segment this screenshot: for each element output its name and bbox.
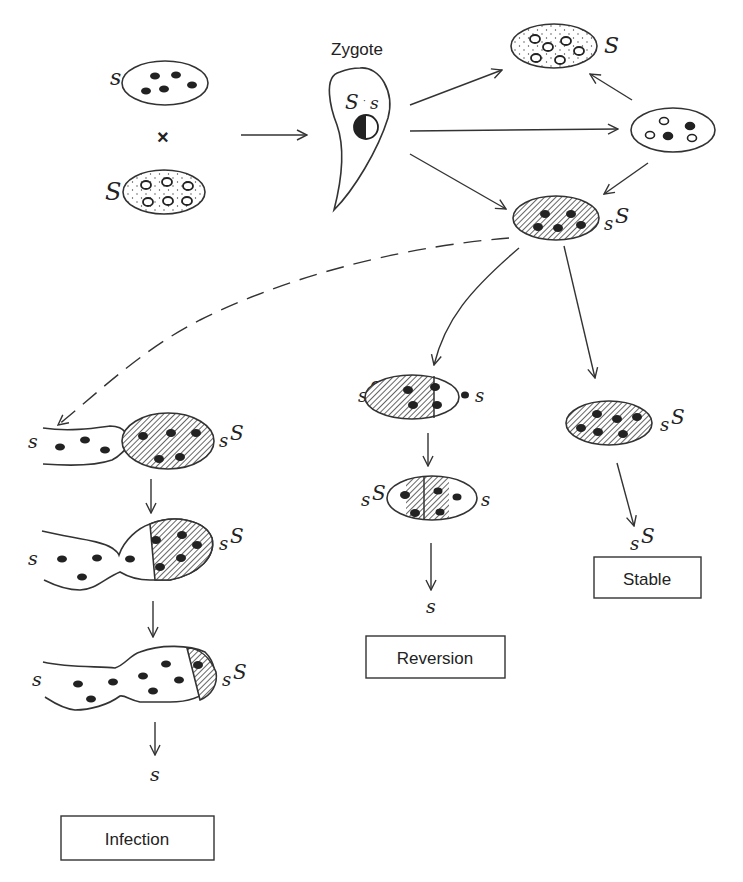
cell-killer xyxy=(123,170,205,214)
cell-stable xyxy=(566,401,652,445)
diagram-canvas: s × S Zygote S · s xyxy=(0,0,743,882)
zygote-body xyxy=(329,68,389,210)
stable-result-small: s xyxy=(630,533,639,554)
label-s: s xyxy=(660,414,669,435)
infection-result-label: s xyxy=(150,763,160,785)
outcome-mixed xyxy=(631,108,715,152)
arrow-zygote-to-heterozygote xyxy=(410,154,506,209)
reversion-result-label: s xyxy=(426,595,436,617)
label-S: S xyxy=(615,204,629,228)
label-S: S xyxy=(233,660,247,684)
stable-box-label: Stable xyxy=(623,570,671,589)
reversion-stage-2: s S s xyxy=(361,476,490,520)
parent-killer: S xyxy=(105,170,205,214)
zygote-title: Zygote xyxy=(331,40,383,59)
infected-cell xyxy=(122,413,214,469)
cell-killer-offspring xyxy=(511,24,597,68)
label-S: S xyxy=(230,421,244,445)
stable-result-big: S xyxy=(641,524,655,548)
arrow-stable-result xyxy=(617,463,634,526)
arrow-mixed-to-heterozygote xyxy=(604,163,648,194)
label-S: S xyxy=(372,481,386,505)
arrow-to-stable xyxy=(564,246,595,378)
label-S: S xyxy=(604,33,619,58)
label-s: s xyxy=(222,669,231,690)
infection-box-label: Infection xyxy=(105,830,169,849)
label-S: S xyxy=(671,405,685,429)
label-s: s xyxy=(481,489,490,510)
nucleus-label-S: S xyxy=(345,90,359,114)
parent-sensitive: s xyxy=(110,61,208,105)
zygote: Zygote S · s xyxy=(329,40,389,210)
nucleus-label-s: s xyxy=(370,93,379,113)
cell-heterozygote xyxy=(513,196,599,240)
arrow-to-reversion xyxy=(434,248,519,365)
label-s: s xyxy=(475,385,484,406)
cross-symbol: × xyxy=(157,126,169,148)
label-s: s xyxy=(110,65,121,90)
label-s: s xyxy=(219,533,228,554)
label-S: S xyxy=(230,524,244,548)
arrow-zygote-to-mixed xyxy=(410,129,618,131)
label-s: s xyxy=(361,489,370,510)
reversion-stage-1: s S s xyxy=(358,375,484,419)
reversion-box-label: Reversion xyxy=(397,649,474,668)
infection-stage-1: s s S xyxy=(28,413,244,469)
label-s: s xyxy=(219,430,228,451)
label-s: s xyxy=(28,430,38,452)
outcome-heterozygote: s S xyxy=(513,196,629,240)
label-S: S xyxy=(105,178,121,206)
cell-mixed xyxy=(631,108,715,152)
label-s: s xyxy=(32,668,42,690)
label-s: s xyxy=(604,213,613,234)
infection-stage-3: s s S xyxy=(32,646,247,710)
outcome-killer: S xyxy=(511,24,619,68)
stable-stage-1: s S xyxy=(566,401,685,445)
label-s: s xyxy=(28,547,38,569)
infection-stage-2: s s S xyxy=(28,519,244,590)
arrow-zygote-to-killer xyxy=(410,70,502,105)
nucleus-dot: · xyxy=(363,96,366,106)
arrow-mixed-to-killer xyxy=(590,74,632,100)
